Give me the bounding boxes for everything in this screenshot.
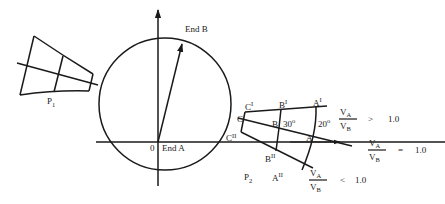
label-c: C: [237, 114, 243, 124]
panel-p2: CI BI AI C B A CII BII AII P2 30o 20o: [226, 96, 352, 184]
label-a-double: AII: [272, 171, 283, 183]
angle-b-label: 30o: [283, 117, 295, 129]
p1-label: P1: [47, 96, 55, 108]
diagram-canvas: P1 End B 0 End A CI BI AI C B A CII BII: [0, 0, 445, 204]
end-a-label: End A: [162, 143, 185, 153]
ratio-equal-numerator: VA: [369, 138, 381, 149]
ratio-equal-value: 1.0: [415, 145, 427, 155]
label-b-double: BII: [265, 152, 275, 164]
ratio-greater-value: 1.0: [388, 114, 400, 124]
ratio-greater-denominator: VB: [340, 121, 352, 132]
p2-line-ratio-less: [241, 132, 313, 168]
ratio-less-relation: <: [340, 175, 345, 185]
ratio-greater: VA VB > 1.0: [339, 107, 400, 132]
ratio-less-numerator: VA: [310, 168, 322, 179]
p2-b-radial: [276, 109, 281, 151]
end-b-label: End B: [185, 24, 208, 34]
ratio-less-denominator: VB: [310, 182, 322, 193]
end-b-vector-arrow: [158, 44, 182, 142]
label-b-prime: BI: [279, 98, 287, 110]
p1-top-edge: [34, 36, 93, 74]
ratio-equal-denominator: VB: [369, 152, 381, 163]
p2-label: P2: [244, 172, 252, 184]
p1-cross-line: [17, 63, 98, 85]
label-b: B: [272, 119, 278, 129]
label-a: A: [306, 133, 313, 143]
ratio-greater-numerator: VA: [340, 107, 352, 118]
ratio-greater-relation: >: [368, 114, 373, 124]
panel-p1: P1: [17, 36, 98, 108]
origin-label: 0: [150, 143, 155, 153]
angle-a-label: 20o: [318, 117, 330, 129]
ratio-equal-relation: =: [398, 145, 403, 155]
ratio-less-value: 1.0: [355, 175, 367, 185]
label-c-prime: CI: [245, 100, 253, 112]
ratio-less: VA VB < 1.0: [309, 168, 367, 193]
